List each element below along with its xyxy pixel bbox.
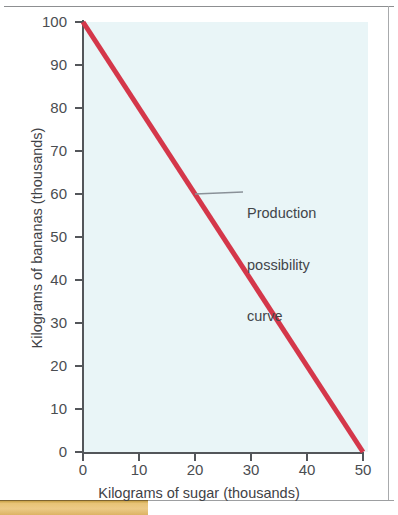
annotation-line-1: Production	[247, 205, 316, 222]
x-axis-title: Kilograms of sugar (thousands)	[0, 485, 398, 501]
annotation-line-3: curve	[247, 308, 316, 325]
production-possibility-chart: 0102030405060708090100 01020304050 Produ…	[0, 0, 398, 515]
annotation-leader-line	[195, 192, 243, 194]
curve-annotation: Production possibility curve	[247, 171, 316, 359]
figure-page: 0102030405060708090100 01020304050 Produ…	[0, 0, 398, 515]
y-axis-title: Kilograms of bananas (thousands)	[29, 88, 45, 388]
annotation-line-2: possibility	[247, 257, 316, 274]
annotation-leader-layer	[0, 0, 398, 515]
